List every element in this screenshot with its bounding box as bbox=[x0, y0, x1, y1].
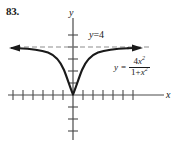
numerator-exponent: 2 bbox=[142, 55, 145, 61]
equation-denominator: 1+x2 bbox=[129, 68, 150, 77]
curve-left-arrowhead bbox=[9, 45, 20, 52]
denominator-exponent: 2 bbox=[145, 66, 148, 72]
equation-equals-sign: = bbox=[121, 63, 126, 72]
x-axis-label: x bbox=[166, 90, 170, 100]
y-axis-label: y bbox=[69, 8, 73, 18]
equation-fraction: 4x2 1+x2 bbox=[129, 57, 150, 78]
asymptote-label: y=4 bbox=[89, 30, 104, 40]
equation-numerator: 4x2 bbox=[132, 57, 148, 66]
graph-plot bbox=[0, 0, 182, 145]
curve-right-arrowhead bbox=[128, 45, 143, 52]
asymptote-label-value: 4 bbox=[99, 29, 104, 40]
equation-lhs: y bbox=[114, 63, 118, 72]
equation-label: y = 4x2 1+x2 bbox=[114, 57, 150, 78]
problem-number: 83. bbox=[6, 6, 19, 17]
figure-container: 83. y x y=4 y = 4x2 1+x2 bbox=[0, 0, 182, 145]
